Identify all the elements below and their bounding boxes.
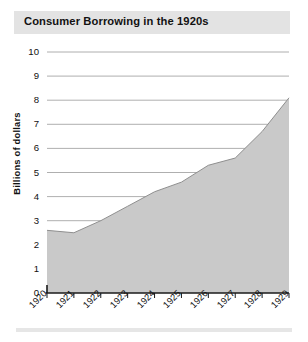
y-axis-tick-label: 4 (13, 192, 39, 202)
bottom-divider (16, 328, 292, 332)
y-axis-tick-label: 2 (13, 240, 39, 250)
data-area-series (47, 98, 289, 293)
y-axis-tick-label: 9 (13, 71, 39, 81)
y-axis-tick-label: 8 (13, 95, 39, 105)
y-axis-tick-label: 5 (13, 168, 39, 178)
y-axis-tick-label: 6 (13, 143, 39, 153)
plot-area: 012345678910 192019211922192319241925192… (0, 0, 308, 342)
y-axis-tick-label: 10 (13, 47, 39, 57)
y-axis-tick-label: 1 (13, 264, 39, 274)
y-axis-tick-label: 3 (13, 216, 39, 226)
plot-svg (0, 0, 308, 342)
y-axis-tick-label: 7 (13, 119, 39, 129)
area-fill-path (47, 98, 289, 293)
chart-figure: Consumer Borrowing in the 1920s Billions… (0, 0, 308, 342)
